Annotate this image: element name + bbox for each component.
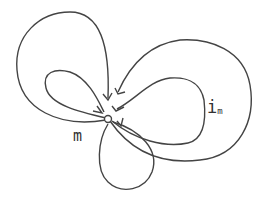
arrow-icon	[93, 106, 102, 113]
label-m: m	[73, 127, 82, 145]
loop-diagram	[0, 0, 263, 204]
label-i-m: im	[207, 97, 223, 117]
label-i: i	[207, 97, 217, 117]
loop-bottom	[99, 122, 153, 189]
center-node	[105, 116, 112, 123]
loop-inner-right	[112, 78, 205, 145]
loop-inner-left	[45, 71, 106, 118]
label-i-subscript: m	[217, 106, 222, 116]
